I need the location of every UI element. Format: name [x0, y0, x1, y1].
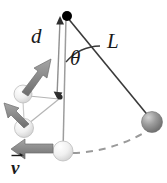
- label-length-L: L: [107, 31, 119, 52]
- ball-bottom-lowest: [53, 141, 73, 161]
- label-distance-d: d: [31, 26, 42, 47]
- label-velocity-v-text: v: [11, 157, 19, 178]
- vertical-reference-line: [63, 17, 66, 152]
- pivot-point: [62, 11, 72, 21]
- distance-d-rail: [57, 20, 60, 97]
- label-angle-theta: θ: [70, 48, 80, 69]
- swing-path-arc: [73, 130, 149, 153]
- ball-right-released: [142, 112, 163, 133]
- path-segment-upperleft-to-midleft: [23, 101, 24, 120]
- path-segment-peg-to-upperleft: [29, 96, 59, 99]
- pendulum-diagram-canvas: [0, 0, 167, 183]
- vector-arrow-icon: [11, 151, 24, 158]
- label-velocity-v: v: [11, 158, 19, 177]
- pendulum-diagram: d θ L v: [0, 0, 167, 183]
- peg-point: [57, 94, 62, 99]
- path-segment-peg-to-midleft: [28, 99, 59, 124]
- velocity-arrow-upper-left: [22, 59, 51, 96]
